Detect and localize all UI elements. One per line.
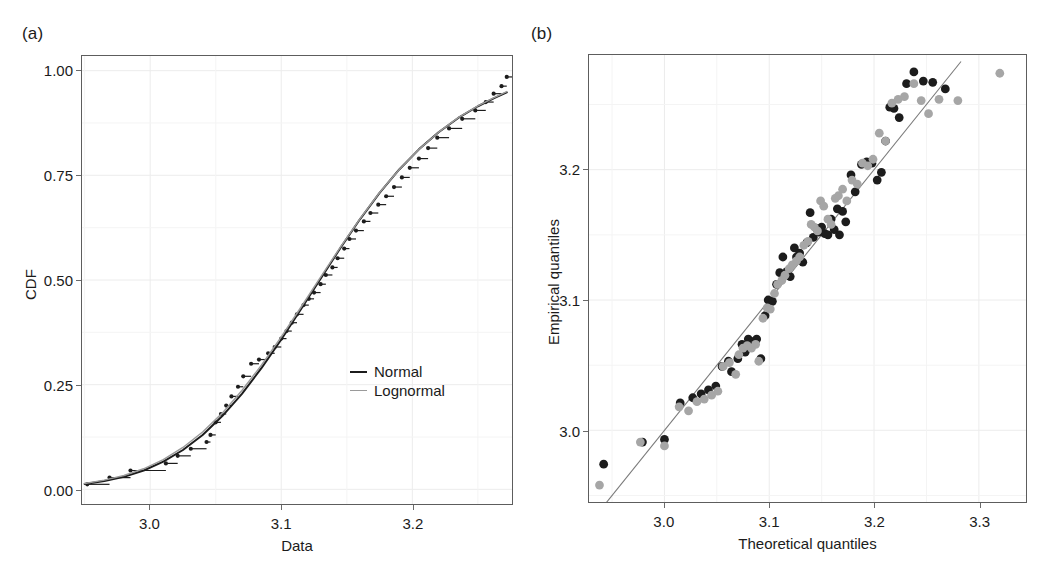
- panel-b-label: (b): [531, 24, 552, 44]
- legend-label-normal: Normal: [374, 363, 422, 380]
- x-tick-label: 3.1: [759, 513, 780, 530]
- panel-b: (b) 3.03.13.2 3.03.13.23.3 Empirical qua…: [527, 0, 1055, 569]
- y-tick-mark: [76, 175, 81, 176]
- panel-b-y-axis-title: Empirical quantiles: [545, 219, 562, 345]
- x-tick-label: 3.0: [139, 515, 160, 532]
- y-tick-label: 1.00: [29, 61, 73, 78]
- y-tick-label: 0.00: [29, 482, 73, 499]
- y-tick-label: 3.2: [536, 161, 580, 178]
- x-tick-label: 3.2: [864, 513, 885, 530]
- panel-a-label: (a): [22, 24, 43, 44]
- legend-swatch-normal-icon: [350, 371, 367, 373]
- x-tick-label: 3.2: [402, 515, 423, 532]
- x-tick-mark: [149, 505, 150, 510]
- x-tick-mark: [281, 505, 282, 510]
- panel-b-x-axis-title: Theoretical quantiles: [738, 535, 876, 552]
- y-tick-mark: [76, 385, 81, 386]
- x-tick-mark: [769, 503, 770, 508]
- legend-swatch-lognormal-icon: [350, 390, 367, 391]
- panel-a: (a) 0.000.250.500.751.00 3.03.13.2 CDF D…: [0, 0, 527, 569]
- panel-a-legend: Normal Lognormal: [350, 362, 445, 400]
- x-tick-mark: [980, 503, 981, 508]
- y-tick-label: 0.75: [29, 166, 73, 183]
- x-tick-label: 3.1: [271, 515, 292, 532]
- panel-b-canvas: [589, 55, 1026, 502]
- panel-a-plot-area: [81, 55, 513, 505]
- x-tick-mark: [413, 505, 414, 510]
- panel-a-x-axis-title: Data: [281, 537, 313, 554]
- panel-b-plot-area: [588, 54, 1027, 503]
- x-tick-label: 3.3: [969, 513, 990, 530]
- x-tick-mark: [874, 503, 875, 508]
- panel-a-y-axis-title: CDF: [22, 269, 39, 300]
- legend-item-lognormal: Lognormal: [350, 381, 445, 400]
- panel-a-canvas: [82, 56, 512, 504]
- y-tick-mark: [76, 490, 81, 491]
- figure-container: (a) 0.000.250.500.751.00 3.03.13.2 CDF D…: [0, 0, 1055, 569]
- x-tick-label: 3.0: [653, 513, 674, 530]
- legend-item-normal: Normal: [350, 362, 445, 381]
- legend-label-lognormal: Lognormal: [374, 382, 445, 399]
- y-tick-label: 3.0: [536, 423, 580, 440]
- y-tick-mark: [583, 431, 588, 432]
- y-tick-mark: [76, 280, 81, 281]
- y-tick-mark: [583, 169, 588, 170]
- y-tick-mark: [76, 70, 81, 71]
- x-tick-mark: [664, 503, 665, 508]
- y-tick-label: 0.25: [29, 377, 73, 394]
- y-tick-mark: [583, 300, 588, 301]
